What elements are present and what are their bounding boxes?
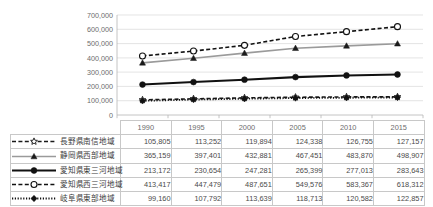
y-tick-0: 0 xyxy=(109,111,113,120)
table-cell: 119,894 xyxy=(222,135,273,149)
table-cell: 365,159 xyxy=(121,149,172,163)
marker-filled-circle xyxy=(344,73,350,79)
column-header-1990: 1990 xyxy=(121,121,172,135)
marker-filled-circle xyxy=(140,82,146,88)
table-cell: 113,639 xyxy=(222,192,273,206)
column-header-2010: 2010 xyxy=(323,121,374,135)
legend-marker-icon xyxy=(11,151,57,162)
series-layer xyxy=(139,24,401,104)
table-cell: 265,399 xyxy=(272,163,323,177)
table-cell: 127,157 xyxy=(373,135,424,149)
table-cell: 487,651 xyxy=(222,177,273,191)
table-cell: 618,312 xyxy=(373,177,424,191)
table-cell: 107,792 xyxy=(171,192,222,206)
legend-key-svg xyxy=(11,136,57,147)
marker-filled-circle xyxy=(191,79,197,85)
table-row: 長野県南信地域105,805113,252119,894124,338126,7… xyxy=(11,135,425,149)
table-cell: 213,172 xyxy=(121,163,172,177)
table-cell: 105,805 xyxy=(121,135,172,149)
marker-filled-circle xyxy=(293,74,299,80)
marker-open-circle xyxy=(344,29,350,35)
series-2 xyxy=(140,72,401,88)
legend-key-svg xyxy=(11,193,57,204)
table-row: 愛知県東三河地域213,172230,654247,281265,399277,… xyxy=(11,163,425,177)
marker-open-circle xyxy=(191,48,197,54)
table-cell: 99,160 xyxy=(121,192,172,206)
y-tick-100000: 100,000 xyxy=(87,96,113,105)
y-tick-400000: 400,000 xyxy=(87,54,113,63)
legend-marker-icon xyxy=(11,136,57,147)
data-table: 1990 1995 2000 2005 2010 2015 長野県南信地域105… xyxy=(10,120,425,206)
legend-key-svg xyxy=(11,151,57,162)
table-row: 岐阜県東部地域99,160107,792113,639118,713120,58… xyxy=(11,192,425,206)
marker-open-circle xyxy=(395,24,401,30)
marker-open-star xyxy=(31,138,38,145)
table-row: 愛知県西三河地域413,417447,479487,651549,576583,… xyxy=(11,177,425,191)
marker-open-circle xyxy=(31,181,37,187)
legend-key-svg xyxy=(11,165,57,176)
legend-item-4[interactable]: 岐阜県東部地域 xyxy=(11,192,121,206)
column-header-2005: 2005 xyxy=(272,121,323,135)
legend-item-2[interactable]: 愛知県東三河地域 xyxy=(11,163,121,177)
gridlines xyxy=(117,15,423,101)
legend-label: 岐阜県東部地域 xyxy=(60,192,115,205)
marker-open-circle xyxy=(242,42,248,48)
table-cell: 432,881 xyxy=(222,149,273,163)
table-body: 長野県南信地域105,805113,252119,894124,338126,7… xyxy=(11,135,425,206)
legend-key-svg xyxy=(11,179,57,190)
marker-filled-circle xyxy=(395,72,401,78)
y-tick-500000: 500,000 xyxy=(87,39,113,48)
legend-marker-icon xyxy=(11,179,57,190)
marker-open-circle xyxy=(140,53,146,59)
series-1 xyxy=(140,41,401,66)
table-cell: 113,252 xyxy=(171,135,222,149)
chart-figure: 700,000 600,000 500,000 400,000 300,000 … xyxy=(0,0,433,207)
column-header-1995: 1995 xyxy=(171,121,222,135)
table-cell: 549,576 xyxy=(272,177,323,191)
legend-label: 長野県南信地域 xyxy=(60,135,115,148)
table-cell: 277,013 xyxy=(323,163,374,177)
y-tick-600000: 600,000 xyxy=(87,25,113,34)
table-cell: 124,338 xyxy=(272,135,323,149)
table-cell: 483,870 xyxy=(323,149,374,163)
table-cell: 120,582 xyxy=(323,192,374,206)
marker-open-circle xyxy=(293,33,299,39)
marker-filled-circle xyxy=(31,167,37,173)
plot-area: 700,000 600,000 500,000 400,000 300,000 … xyxy=(0,5,433,120)
table-cell: 230,654 xyxy=(171,163,222,177)
table-cell: 447,479 xyxy=(171,177,222,191)
legend-item-0[interactable]: 長野県南信地域 xyxy=(11,135,121,149)
y-axis-tick-labels: 700,000 600,000 500,000 400,000 300,000 … xyxy=(87,11,113,120)
legend-item-3[interactable]: 愛知県西三河地域 xyxy=(11,177,121,191)
table-header-row: 1990 1995 2000 2005 2010 2015 xyxy=(11,121,425,135)
legend-item-1[interactable]: 静岡県西部地域 xyxy=(11,149,121,163)
marker-filled-circle xyxy=(242,77,248,83)
table-cell: 122,857 xyxy=(373,192,424,206)
legend-marker-icon xyxy=(11,165,57,176)
table-cell: 247,281 xyxy=(222,163,273,177)
table-cell: 413,417 xyxy=(121,177,172,191)
line-chart-svg: 700,000 600,000 500,000 400,000 300,000 … xyxy=(0,5,433,120)
table-cell: 126,755 xyxy=(323,135,374,149)
legend-label: 愛知県西三河地域 xyxy=(60,178,122,191)
y-tick-300000: 300,000 xyxy=(87,68,113,77)
column-header-2000: 2000 xyxy=(222,121,273,135)
table-corner-cell xyxy=(11,121,121,135)
table-cell: 467,451 xyxy=(272,149,323,163)
legend-label: 静岡県西部地域 xyxy=(60,149,115,162)
y-tick-200000: 200,000 xyxy=(87,82,113,91)
y-tick-700000: 700,000 xyxy=(87,11,113,20)
x-axis-ticks xyxy=(117,115,423,118)
table-cell: 397,401 xyxy=(171,149,222,163)
series-4 xyxy=(140,94,401,104)
table-cell: 283,643 xyxy=(373,163,424,177)
legend-marker-icon xyxy=(11,193,57,204)
legend-label: 愛知県東三河地域 xyxy=(60,164,122,177)
column-header-2015: 2015 xyxy=(373,121,424,135)
table-cell: 118,713 xyxy=(272,192,323,206)
table-cell: 498,907 xyxy=(373,149,424,163)
table-cell: 583,367 xyxy=(323,177,374,191)
table-row: 静岡県西部地域365,159397,401432,881467,451483,8… xyxy=(11,149,425,163)
marker-filled-diamond xyxy=(31,195,37,201)
